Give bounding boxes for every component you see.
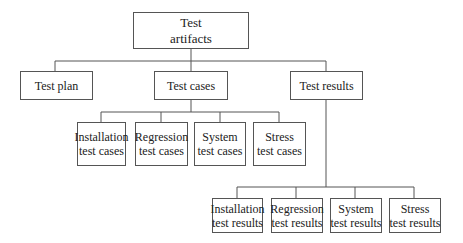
node-label: System [338, 202, 373, 216]
node-installation-test-cases: Installation test cases [77, 122, 126, 166]
node-label: Stress [265, 130, 294, 144]
node-label: Test plan [35, 79, 78, 93]
node-label: Installation [75, 130, 129, 144]
node-label: Regression [135, 130, 188, 144]
node-label: Regression [270, 202, 323, 216]
node-label: test results [390, 216, 441, 230]
node-label: test cases [198, 144, 243, 158]
node-regression-test-cases: Regression test cases [135, 122, 188, 166]
node-label: Test [180, 15, 201, 31]
node-system-test-results: System test results [330, 198, 382, 233]
node-test-results: Test results [290, 71, 363, 100]
node-label: Test results [299, 79, 353, 93]
node-test-artifacts: Test artifacts [133, 12, 249, 49]
node-installation-test-results: Installation test results [212, 198, 263, 233]
node-regression-test-results: Regression test results [271, 198, 323, 233]
node-label: test results [272, 216, 323, 230]
node-label: test results [331, 216, 382, 230]
node-system-test-cases: System test cases [194, 122, 246, 166]
node-label: test results [212, 216, 263, 230]
node-test-cases: Test cases [154, 71, 228, 100]
node-stress-test-results: Stress test results [389, 198, 441, 233]
node-stress-test-cases: Stress test cases [253, 122, 306, 166]
node-label: Stress [401, 202, 430, 216]
node-test-plan: Test plan [20, 71, 93, 100]
node-label: test cases [79, 144, 124, 158]
node-label: System [202, 130, 237, 144]
node-label: artifacts [170, 31, 212, 47]
node-label: test cases [257, 144, 302, 158]
node-label: Test cases [167, 79, 215, 93]
node-label: test cases [139, 144, 184, 158]
node-label: Installation [211, 202, 265, 216]
